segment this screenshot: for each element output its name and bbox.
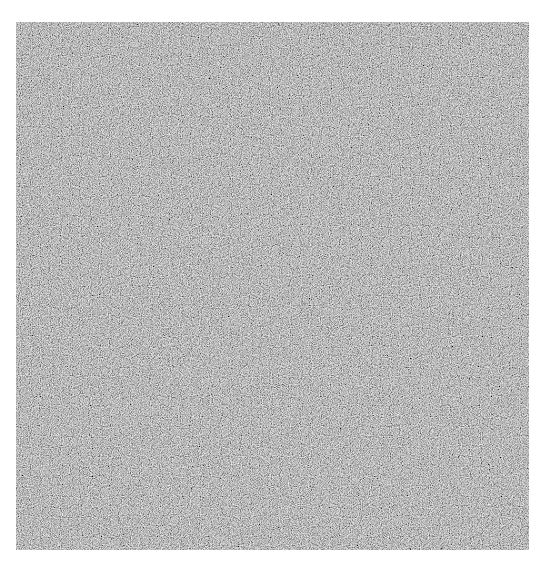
image-canvas (0, 0, 547, 572)
noise-texture-square (16, 22, 529, 550)
noise-pattern (16, 22, 529, 550)
